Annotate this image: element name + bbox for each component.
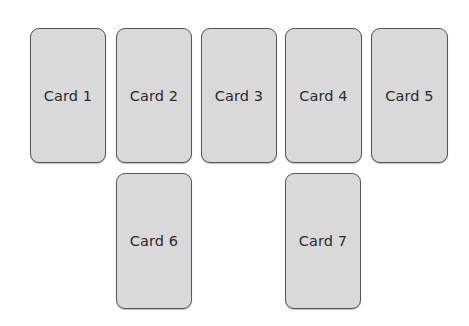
card-1[interactable]: Card 1 [30,28,106,163]
card-label: Card 7 [299,233,347,249]
card-6[interactable]: Card 6 [116,173,192,309]
card-2[interactable]: Card 2 [116,28,192,163]
card-3[interactable]: Card 3 [201,28,277,163]
card-label: Card 6 [130,233,178,249]
card-4[interactable]: Card 4 [285,28,362,163]
card-7[interactable]: Card 7 [285,173,361,309]
card-5[interactable]: Card 5 [371,28,448,163]
card-label: Card 2 [130,88,178,104]
card-label: Card 5 [385,88,433,104]
card-label: Card 3 [215,88,263,104]
card-label: Card 1 [44,88,92,104]
card-label: Card 4 [299,88,347,104]
